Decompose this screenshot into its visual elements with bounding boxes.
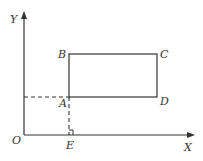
x-axis-arrow-icon [187,132,195,138]
origin-label: O [12,134,21,147]
vertex-a-label: A [58,97,67,110]
diagram-canvas: Y X O B C D A E [0,0,203,161]
vertex-c-label: C [160,48,169,61]
rectangle-abcd [69,54,157,97]
right-angle-mark-icon [69,130,73,135]
point-e-label: E [65,139,74,152]
y-axis-label: Y [10,13,19,26]
y-axis-arrow-icon [21,11,27,19]
x-axis-label: X [183,141,193,154]
vertex-d-label: D [159,95,169,108]
vertex-b-label: B [57,48,66,61]
